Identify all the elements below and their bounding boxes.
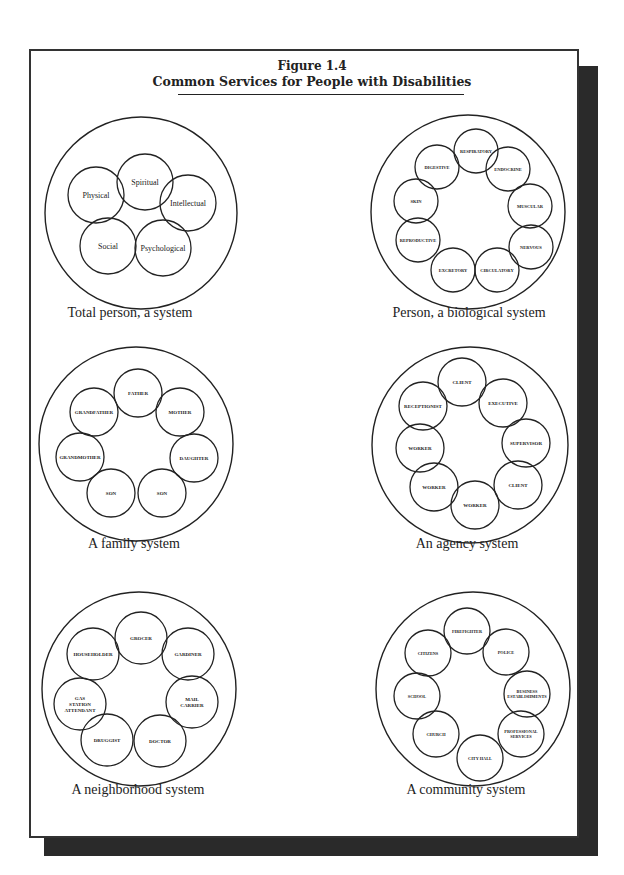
component-label: EXCRETORY [439,268,468,273]
component-label: BUSINESSESTABLISHMENTS [507,689,547,699]
component-label: SCHOOL [408,694,427,699]
component-label: FATHER [128,391,148,396]
component-label: WORKER [463,503,487,508]
component-label: GARDINER [174,652,202,657]
component-label: Psychological [141,244,187,253]
component-label: DRUGGIST [94,738,121,743]
component-label: CLIENT [508,483,528,488]
component-label: MUSCULAR [517,204,544,209]
diagram-community-system: FIREFIGHTERPOLICEBUSINESSESTABLISHMENTSP… [376,592,570,786]
caption-community-system: A community system [407,782,526,798]
caption-family-system: A family system [88,536,180,552]
component-label: GRANDMOTHER [59,455,101,460]
caption-neighborhood-system: A neighborhood system [72,782,205,798]
component-label: GASSTATIONATTENDANT [64,696,96,713]
caption-agency-system: An agency system [416,536,519,552]
diagram-agency-system: CLIENTEXECUTIVESUPERVISORCLIENTWORKERWOR… [372,347,568,543]
component-label: MAILCARRIER [180,697,204,708]
component-label: SKIN [410,199,422,204]
component-label: RESPIRATORY [460,149,493,154]
component-label: DOCTOR [149,739,171,744]
component-label: WORKER [422,485,446,490]
component-label: Social [98,242,119,251]
component-label: NERVOUS [520,245,542,250]
component-label: Physical [82,191,110,200]
component-label: CITY HALL [468,756,492,761]
component-label: HOUSEHOLDER [73,652,113,657]
outer-system-circle [371,115,565,309]
systems-diagrams: SpiritualIntellectualPsychologicalSocial… [0,0,624,875]
diagram-family-system: FATHERMOTHERDAUGHTERSONSONGRANDMOTHERGRA… [39,347,233,541]
caption-total-person: Total person, a system [68,305,193,321]
diagram-total-person: SpiritualIntellectualPsychologicalSocial… [45,117,237,309]
component-label: SON [106,491,117,496]
component-label: SON [157,491,168,496]
component-label: CHURCH [426,732,446,737]
component-label: FIREFIGHTER [452,629,483,634]
component-label: SUPERVISOR [510,441,542,446]
component-label: ENDOCRINE [494,167,522,172]
component-label: EXECUTIVE [488,401,518,406]
component-label: PROFESSIONALSERVICES [504,729,538,739]
component-label: CITIZENS [418,651,439,656]
component-label: CIRCULATORY [480,268,514,273]
component-label: DAUGHTER [180,456,209,461]
component-label: GROCER [130,636,152,641]
component-label: DIGESTIVE [424,165,449,170]
component-label: RECEPTIONIST [404,404,442,409]
component-label: GRANDFATHER [75,410,114,415]
outer-system-circle [39,347,233,541]
diagram-biological-system: RESPIRATORYENDOCRINEMUSCULARNERVOUSCIRCU… [371,115,565,309]
component-label: MOTHER [169,410,192,415]
component-label: Intellectual [170,199,207,208]
component-label: REPRODUCTIVE [400,238,437,243]
component-label: WORKER [408,446,432,451]
caption-biological-system: Person, a biological system [392,305,545,321]
component-label: Spiritual [131,178,159,187]
component-label: POLICE [498,650,515,655]
component-label: CLIENT [452,380,472,385]
diagram-neighborhood-system: GROCERGARDINERMAILCARRIERDOCTORDRUGGISTG… [42,592,236,786]
